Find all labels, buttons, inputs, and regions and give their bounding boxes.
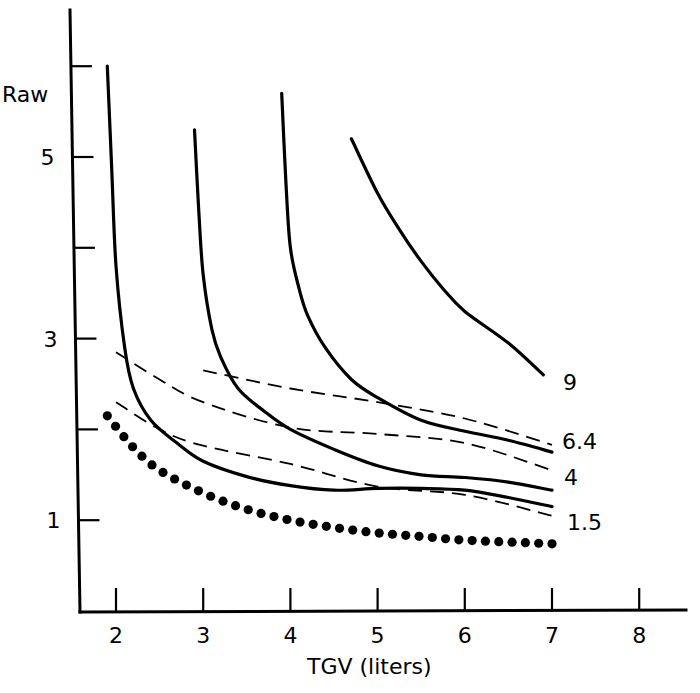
x-tick-label: 5: [371, 623, 385, 648]
curve-labels: 96.441.5: [562, 370, 602, 535]
dot-marker: [348, 525, 357, 534]
solid-curve-3: [282, 93, 552, 452]
dot-marker: [111, 422, 120, 431]
chart: 135 2345678 Raw TGV (liters) 96.441.5: [0, 0, 700, 693]
dot-marker: [388, 530, 397, 539]
dot-marker: [322, 522, 331, 531]
dot-marker: [206, 492, 215, 501]
x-tick-label: 8: [632, 623, 646, 648]
x-tick-label: 3: [196, 623, 210, 648]
dot-marker: [481, 537, 490, 546]
x-ticks: 2345678: [109, 588, 646, 648]
y-axis: [70, 10, 80, 612]
dot-marker: [103, 411, 112, 420]
y-tick-label: 1: [46, 508, 60, 533]
dashed-line-upper: [203, 370, 552, 444]
solid-curve-1: [107, 66, 552, 506]
dashed-line-lower: [116, 402, 552, 516]
dot-marker: [361, 527, 370, 536]
dot-marker: [128, 442, 137, 451]
dot-marker: [534, 539, 543, 548]
x-tick-label: 4: [283, 623, 297, 648]
x-tick-label: 6: [458, 623, 472, 648]
dot-marker: [256, 509, 265, 518]
x-tick-label: 7: [545, 623, 559, 648]
curve-label: 9: [563, 370, 577, 395]
dot-marker: [170, 474, 179, 483]
curve-label: 1.5: [567, 510, 602, 535]
dot-marker: [441, 534, 450, 543]
dot-marker: [182, 481, 191, 490]
x-tick-label: 2: [109, 623, 123, 648]
dot-marker: [468, 536, 477, 545]
dot-marker: [231, 501, 240, 510]
y-axis-label: Raw: [2, 82, 48, 107]
dot-marker: [335, 524, 344, 533]
dot-marker: [244, 505, 253, 514]
y-tick-label: 5: [40, 145, 54, 170]
dot-marker: [119, 432, 128, 441]
dot-marker: [494, 537, 503, 546]
y-tick-label: 3: [43, 327, 57, 352]
dot-marker: [547, 539, 556, 548]
dot-marker: [454, 535, 463, 544]
dot-marker: [414, 532, 423, 541]
dot-marker: [158, 468, 167, 477]
dot-marker: [375, 528, 384, 537]
dot-marker: [295, 517, 304, 526]
dashed-line-middle: [116, 352, 552, 470]
dot-marker: [282, 515, 291, 524]
solid-curve-4: [351, 139, 543, 375]
dot-marker: [137, 452, 146, 461]
dot-marker: [428, 533, 437, 542]
dot-marker: [218, 497, 227, 506]
dot-marker: [521, 538, 530, 547]
dot-marker: [401, 531, 410, 540]
x-axis-label: TGV (liters): [306, 654, 432, 679]
dot-marker: [507, 538, 516, 547]
dot-marker: [269, 512, 278, 521]
curve-label: 4: [564, 465, 578, 490]
y-ticks: 135: [40, 66, 99, 533]
x-axis: [80, 610, 686, 612]
dot-marker: [147, 460, 156, 469]
dot-marker: [194, 486, 203, 495]
dot-marker: [309, 520, 318, 529]
plot-series: [103, 66, 557, 548]
curve-label: 6.4: [562, 429, 597, 454]
